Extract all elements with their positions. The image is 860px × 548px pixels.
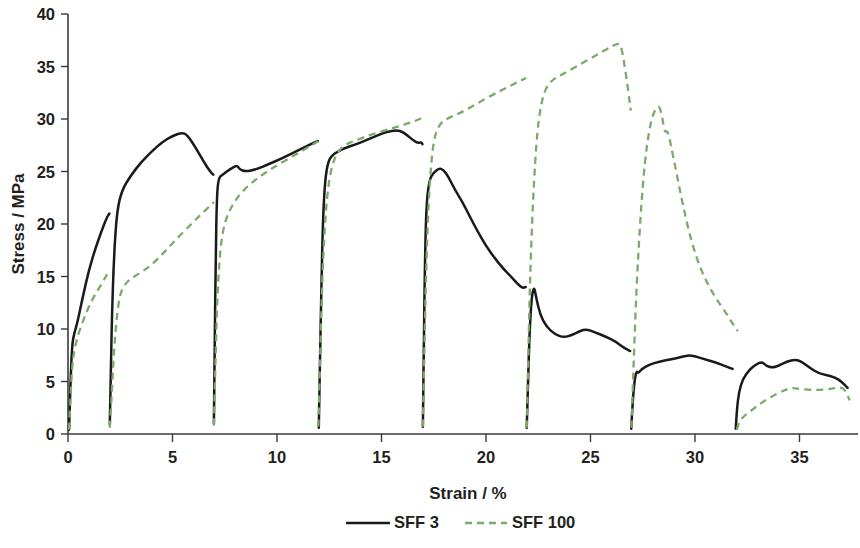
x-tick-label: 15 [372,448,390,466]
y-tick-label: 35 [37,58,55,76]
y-axis: 0510152025303540 [37,5,68,443]
x-tick-label: 20 [477,448,495,466]
y-axis-title: Stress / MPa [9,173,28,275]
x-axis-title: Strain / % [429,484,506,503]
y-tick-label: 5 [46,373,55,391]
x-tick-label: 35 [790,448,808,466]
y-tick-label: 10 [37,320,55,338]
y-tick-label: 20 [37,215,55,233]
legend-label-sff-3: SFF 3 [394,513,439,531]
x-tick-label: 10 [268,448,286,466]
x-tick-label: 5 [168,448,177,466]
y-tick-label: 25 [37,163,55,181]
plot-background [68,14,858,434]
chart-svg: 0510152025303540 05101520253035 Strain /… [0,0,860,548]
y-tick-label: 0 [46,425,55,443]
stress-strain-chart: 0510152025303540 05101520253035 Strain /… [0,0,860,548]
legend-label-sff-100: SFF 100 [512,513,575,531]
chart-legend: SFF 3SFF 100 [347,513,575,531]
y-tick-label: 15 [37,268,55,286]
y-tick-label: 30 [37,110,55,128]
x-axis: 05101520253035 [63,434,858,466]
x-tick-labels: 05101520253035 [63,448,808,466]
y-tick-labels: 0510152025303540 [37,5,55,443]
x-tick-label: 25 [581,448,599,466]
x-tick-marks [68,434,799,442]
x-tick-label: 0 [63,448,72,466]
x-tick-label: 30 [686,448,704,466]
y-tick-label: 40 [37,5,55,23]
plot-area [68,14,858,434]
y-tick-marks [61,14,68,434]
